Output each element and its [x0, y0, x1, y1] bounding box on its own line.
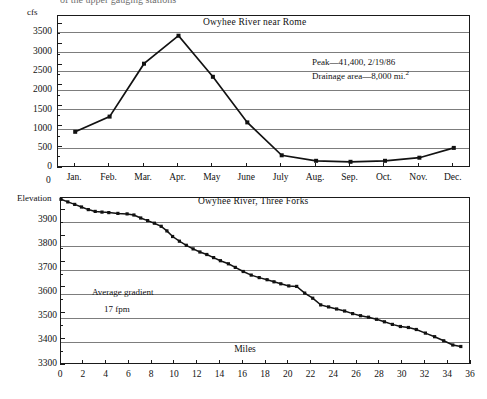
data-point [192, 247, 195, 250]
data-point [139, 216, 142, 219]
data-point [177, 34, 181, 38]
x-origin-label: 0 [46, 175, 51, 185]
data-point [272, 280, 275, 283]
x-tick-label: Dec. [431, 172, 475, 182]
data-point [100, 211, 103, 214]
y-tick-mark [60, 235, 65, 236]
data-point [442, 339, 445, 342]
data-point [287, 284, 290, 287]
data-point [160, 225, 163, 228]
x-tick-mark [287, 360, 288, 364]
y-tick-mark [57, 23, 62, 24]
y-tick-mark [57, 136, 60, 137]
data-point [219, 259, 222, 262]
data-point [73, 130, 77, 134]
y-tick-label: 1000 [10, 123, 52, 133]
x-tick-mark [378, 360, 379, 364]
y-tick-mark [57, 125, 62, 126]
x-tick-mark [401, 360, 402, 364]
y-tick-mark [57, 115, 60, 116]
y-tick-mark [57, 33, 60, 34]
y-tick-mark [57, 95, 60, 96]
data-point [80, 205, 83, 208]
x-tick-mark [219, 360, 220, 364]
data-point [359, 314, 362, 317]
x-tick-mark [315, 163, 316, 167]
data-point [250, 274, 253, 277]
x-tick-mark [280, 163, 281, 167]
y-tick-label: 3500 [10, 26, 52, 36]
y-tick-mark [60, 351, 63, 352]
data-point [227, 262, 230, 265]
y-tick-mark [57, 146, 62, 147]
y-tick-mark [60, 286, 65, 287]
x-tick-mark [447, 360, 448, 364]
x-tick-mark [246, 163, 247, 167]
data-point [417, 156, 421, 160]
data-point [66, 200, 69, 203]
annotation-gradient-value: 17 fpm [104, 304, 130, 314]
y-tick-label: 2000 [10, 84, 52, 94]
y-tick-label: 1500 [10, 104, 52, 114]
y-tick-label: 3800 [12, 238, 57, 248]
x-tick-mark [356, 360, 357, 364]
data-point [367, 316, 370, 319]
y-tick-mark [57, 84, 62, 85]
y-tick-label: 3500 [12, 310, 57, 320]
x-tick-mark [452, 163, 453, 167]
x-tick-mark [242, 360, 243, 364]
data-point [415, 328, 418, 331]
x-tick-mark [196, 360, 197, 364]
x-tick-mark [60, 360, 61, 364]
y-tick-mark [60, 222, 63, 223]
y-tick-mark [60, 338, 65, 339]
data-point [280, 153, 284, 157]
data-point [142, 62, 146, 66]
data-point [108, 115, 112, 119]
data-point [399, 325, 402, 328]
y-axis-unit-label-bottom: Elevation [17, 193, 52, 203]
x-tick-label: 36 [455, 369, 485, 379]
data-point [94, 210, 97, 213]
x-tick-mark [177, 163, 178, 167]
figure-page: of the upper gauging stations cfs Owyhee… [0, 0, 487, 399]
data-point [205, 253, 208, 256]
data-point [433, 335, 436, 338]
y-tick-mark [60, 325, 63, 326]
data-point [279, 282, 282, 285]
x-tick-mark [108, 163, 109, 167]
data-point [212, 256, 215, 259]
data-point [311, 297, 314, 300]
data-point [391, 323, 394, 326]
annotation-drainage: Drainage area—8,000 mi.2 [312, 69, 409, 81]
y-tick-mark [60, 299, 63, 300]
x-axis-label-miles: Miles [215, 344, 275, 354]
x-tick-mark [424, 360, 425, 364]
data-point [424, 332, 427, 335]
chart-owyhee-three-forks: Elevation Owyhee River, Three Forks Aver… [0, 192, 487, 399]
data-point [234, 266, 237, 269]
x-tick-mark [310, 360, 311, 364]
data-point [73, 203, 76, 206]
y-tick-mark [57, 64, 62, 65]
plot-area-bottom [60, 197, 470, 364]
data-point [459, 345, 462, 348]
x-tick-mark [265, 360, 266, 364]
x-tick-mark [470, 360, 471, 364]
x-tick-mark [333, 360, 334, 364]
y-tick-mark [57, 43, 62, 44]
x-tick-mark [128, 360, 129, 364]
data-point [87, 208, 90, 211]
y-tick-mark [60, 274, 63, 275]
data-point [266, 278, 269, 281]
data-point [185, 244, 188, 247]
data-point [126, 212, 129, 215]
y-tick-mark [60, 248, 63, 249]
y-tick-label: 3400 [12, 334, 57, 344]
x-tick-mark [173, 360, 174, 364]
data-point [59, 198, 62, 201]
data-point [335, 307, 338, 310]
x-tick-mark [151, 360, 152, 364]
data-point [343, 309, 346, 312]
x-tick-mark [82, 360, 83, 364]
